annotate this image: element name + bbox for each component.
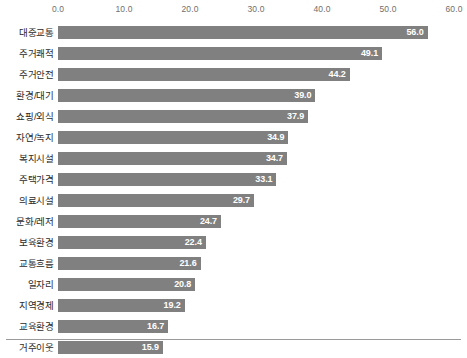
bar-track: 29.7 bbox=[58, 190, 463, 211]
category-label: 복지시설 bbox=[2, 148, 54, 169]
bar-value-label: 15.9 bbox=[142, 341, 163, 354]
category-label-cell: 주거안전 bbox=[0, 64, 54, 85]
bar[interactable] bbox=[58, 173, 276, 186]
bar-value-label: 44.2 bbox=[329, 68, 350, 81]
bar-value-label: 39.0 bbox=[294, 89, 315, 102]
bar-track: 15.9 bbox=[58, 337, 463, 358]
bar-track: 24.7 bbox=[58, 211, 463, 232]
chart-row: 환경/대기39.0 bbox=[0, 85, 467, 106]
chart-row: 주거쾌적49.1 bbox=[0, 43, 467, 64]
chart-row: 대중교통56.0 bbox=[0, 22, 467, 43]
bar-track: 16.7 bbox=[58, 316, 463, 337]
bar[interactable] bbox=[58, 152, 287, 165]
bar-value-label: 29.7 bbox=[233, 194, 254, 207]
x-tick-label: 50.0 bbox=[380, 4, 397, 14]
category-label: 문화/레저 bbox=[2, 211, 54, 232]
category-label-cell: 쇼핑/외식 bbox=[0, 106, 54, 127]
category-label-cell: 주택가격 bbox=[0, 169, 54, 190]
category-label: 지역경제 bbox=[2, 295, 54, 316]
category-label: 일자리 bbox=[2, 274, 54, 295]
category-label: 대중교통 bbox=[2, 22, 54, 43]
bar-track: 22.4 bbox=[58, 232, 463, 253]
bar-value-label: 34.7 bbox=[266, 152, 287, 165]
bar[interactable] bbox=[58, 215, 221, 228]
x-tick-label: 30.0 bbox=[248, 4, 265, 14]
chart-row: 의료시설29.7 bbox=[0, 190, 467, 211]
bar-track: 19.2 bbox=[58, 295, 463, 316]
category-label: 주거쾌적 bbox=[2, 43, 54, 64]
x-tick-label: 20.0 bbox=[182, 4, 199, 14]
bar-value-label: 37.9 bbox=[287, 110, 308, 123]
category-label: 자연/녹지 bbox=[2, 127, 54, 148]
bar-value-label: 20.8 bbox=[174, 278, 195, 291]
category-label-cell: 대중교통 bbox=[0, 22, 54, 43]
category-label: 주택가격 bbox=[2, 169, 54, 190]
chart-bottom-border bbox=[6, 339, 461, 340]
category-label-cell: 일자리 bbox=[0, 274, 54, 295]
chart-row: 복지시설34.7 bbox=[0, 148, 467, 169]
bar-value-label: 16.7 bbox=[147, 320, 168, 333]
bar-track: 39.0 bbox=[58, 85, 463, 106]
bar-value-label: 34.9 bbox=[267, 131, 288, 144]
bar-value-label: 24.7 bbox=[200, 215, 221, 228]
bar[interactable] bbox=[58, 194, 254, 207]
bar-track: 20.8 bbox=[58, 274, 463, 295]
bar-track: 56.0 bbox=[58, 22, 463, 43]
category-label: 보육환경 bbox=[2, 232, 54, 253]
category-label-cell: 문화/레저 bbox=[0, 211, 54, 232]
category-label-cell: 의료시설 bbox=[0, 190, 54, 211]
bar-value-label: 19.2 bbox=[164, 299, 185, 312]
bar-track: 33.1 bbox=[58, 169, 463, 190]
chart-row: 주거안전44.2 bbox=[0, 64, 467, 85]
bar-value-label: 21.6 bbox=[179, 257, 200, 270]
category-label: 교통흐름 bbox=[2, 253, 54, 274]
category-label: 교육환경 bbox=[2, 316, 54, 337]
bar[interactable] bbox=[58, 68, 350, 81]
bar-track: 34.7 bbox=[58, 148, 463, 169]
category-label-cell: 자연/녹지 bbox=[0, 127, 54, 148]
category-label: 거주이웃 bbox=[2, 337, 54, 358]
chart-row: 거주이웃15.9 bbox=[0, 337, 467, 358]
bar-track: 44.2 bbox=[58, 64, 463, 85]
chart-row: 쇼핑/외식37.9 bbox=[0, 106, 467, 127]
category-label: 의료시설 bbox=[2, 190, 54, 211]
category-label-cell: 환경/대기 bbox=[0, 85, 54, 106]
x-tick-label: 60.0 bbox=[446, 4, 463, 14]
x-axis-tick-labels: 0.010.020.030.040.050.060.0 bbox=[0, 0, 467, 22]
chart-row: 자연/녹지34.9 bbox=[0, 127, 467, 148]
category-label-cell: 지역경제 bbox=[0, 295, 54, 316]
x-tick-label: 0.0 bbox=[52, 4, 64, 14]
bar[interactable] bbox=[58, 110, 308, 123]
chart-row: 교육환경16.7 bbox=[0, 316, 467, 337]
bar-value-label: 49.1 bbox=[361, 47, 382, 60]
x-tick-label: 40.0 bbox=[314, 4, 331, 14]
bar-value-label: 33.1 bbox=[255, 173, 276, 186]
category-label-cell: 교육환경 bbox=[0, 316, 54, 337]
category-label-cell: 교통흐름 bbox=[0, 253, 54, 274]
category-label: 환경/대기 bbox=[2, 85, 54, 106]
category-label-cell: 복지시설 bbox=[0, 148, 54, 169]
bar[interactable] bbox=[58, 47, 382, 60]
chart-row: 문화/레저24.7 bbox=[0, 211, 467, 232]
bar[interactable] bbox=[58, 89, 315, 102]
category-label-cell: 주거쾌적 bbox=[0, 43, 54, 64]
bar-value-label: 56.0 bbox=[406, 26, 427, 39]
bar[interactable] bbox=[58, 131, 288, 144]
category-label: 쇼핑/외식 bbox=[2, 106, 54, 127]
chart-row: 일자리20.8 bbox=[0, 274, 467, 295]
chart-row: 주택가격33.1 bbox=[0, 169, 467, 190]
chart-row: 교통흐름21.6 bbox=[0, 253, 467, 274]
category-label-cell: 거주이웃 bbox=[0, 337, 54, 358]
bar-track: 37.9 bbox=[58, 106, 463, 127]
x-tick-label: 10.0 bbox=[116, 4, 133, 14]
chart-row: 보육환경22.4 bbox=[0, 232, 467, 253]
bar-value-label: 22.4 bbox=[185, 236, 206, 249]
bar-track: 49.1 bbox=[58, 43, 463, 64]
chart-plot-area: 대중교통56.0주거쾌적49.1주거안전44.2환경/대기39.0쇼핑/외식37… bbox=[0, 22, 467, 358]
bar[interactable] bbox=[58, 236, 206, 249]
bar[interactable] bbox=[58, 26, 428, 39]
bar-track: 34.9 bbox=[58, 127, 463, 148]
category-label: 주거안전 bbox=[2, 64, 54, 85]
bar-track: 21.6 bbox=[58, 253, 463, 274]
